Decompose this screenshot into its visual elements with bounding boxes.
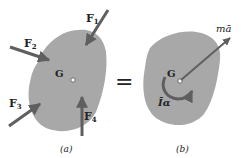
center-label-b: G xyxy=(167,68,176,79)
rigid-body-diagram: F1 F2 F3 F4 G (a) = G mā Īα (b) xyxy=(0,0,242,158)
force-label-f1: F1 xyxy=(86,12,99,26)
force-label-f2: F2 xyxy=(24,37,37,51)
equals-sign: = xyxy=(115,69,133,94)
force-label-f3: F3 xyxy=(9,97,22,111)
center-of-mass-a xyxy=(71,78,75,82)
caption-a: (a) xyxy=(60,144,73,154)
center-label-a: G xyxy=(55,68,64,79)
linear-inertia-label: mā xyxy=(216,23,231,34)
angular-inertia-label: Īα xyxy=(157,97,171,108)
caption-b: (b) xyxy=(176,144,189,154)
